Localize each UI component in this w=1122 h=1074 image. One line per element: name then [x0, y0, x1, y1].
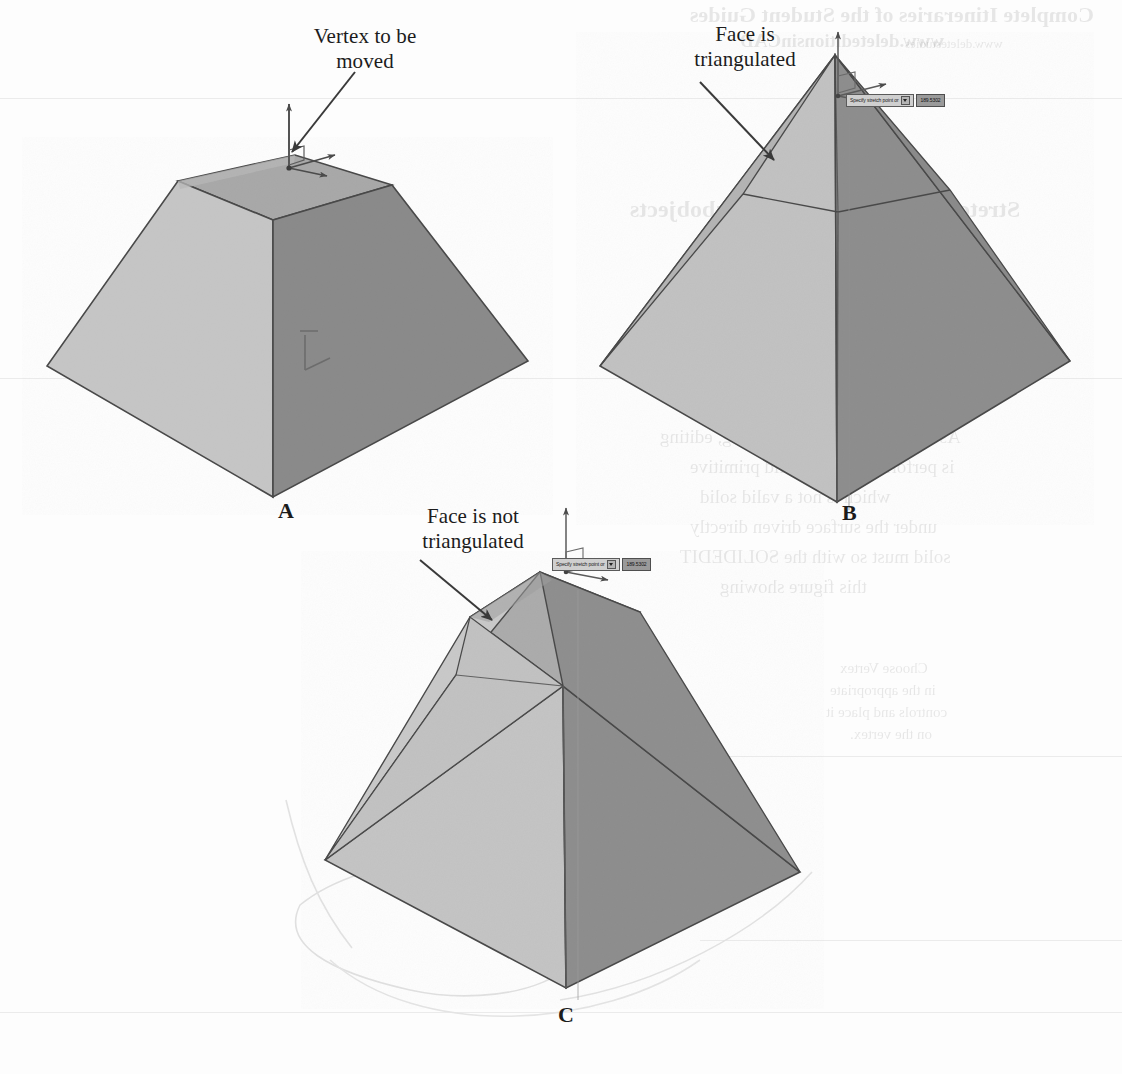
bleed-text: Choose Vertex: [840, 660, 928, 677]
figure-b-apex-crease: [835, 55, 838, 212]
figure-b-leader-line: [700, 82, 774, 160]
figure-c-ghost-ellipse: [296, 858, 582, 995]
figure-a-move-gizmo[interactable]: [286, 104, 335, 176]
figure-c-center-seam: [563, 686, 566, 988]
gizmo-center[interactable]: [836, 94, 841, 99]
chevron-down-icon[interactable]: [901, 96, 910, 105]
bleed-text: is performed on the solid primitive: [690, 456, 954, 478]
bleed-text: under the surface driven directly: [690, 516, 937, 538]
figure-c-upper-left-facet: [325, 572, 540, 860]
figure-a-bevel-strip: [178, 155, 295, 189]
bleed-text: solid must so with the SOLIDEDIT: [680, 546, 951, 568]
figure-c-left-face: [325, 686, 566, 988]
chevron-down-icon[interactable]: [607, 560, 616, 569]
figure-c-top-flat-face: [470, 572, 640, 686]
figure-b-solid: [600, 55, 1070, 502]
figure-c-leader-line: [420, 560, 492, 620]
bleed-text: this figure showing: [720, 576, 867, 598]
figure-a-top-face: [178, 155, 392, 220]
figure-b-tess-edge-right: [838, 190, 950, 212]
figure-b-center-seam: [837, 212, 838, 502]
bleed-rule: [700, 940, 1122, 941]
figure-c-left-crease: [456, 675, 563, 686]
gizmo-x-axis[interactable]: [289, 155, 335, 168]
figure-page: Complete Itineraries of the Student Guid…: [0, 0, 1122, 1074]
figure-a-leader-line: [292, 72, 355, 152]
figure-b-right-face: [835, 55, 1070, 502]
bleed-text: AutoCAD automatically triangulates: [690, 306, 970, 328]
figure-c-left-upper-band: [325, 617, 563, 860]
dynamic-input-prompt-text-c: Specify stretch point or: [556, 559, 604, 570]
callout-vertex-to-be-moved: Vertex to be moved: [270, 24, 460, 74]
gizmo-y-axis[interactable]: [566, 572, 608, 580]
bleed-rule: [0, 378, 1122, 379]
figure-c-right-face: [563, 686, 800, 988]
dynamic-input-coordinate-field-c[interactable]: 189.5302: [622, 558, 650, 571]
bleed-rule: [0, 98, 1122, 99]
bleed-rule: [700, 756, 1122, 757]
bleed-text: on the vertex.: [850, 726, 932, 743]
figure-c-solid: [325, 572, 800, 988]
dynamic-input-prompt-text-b: Specify stretch point or: [850, 95, 898, 106]
bleed-text: it. Simply put: a face should be flat: [680, 336, 947, 358]
figure-letter-a: A: [278, 498, 294, 524]
gizmo-plane-handle[interactable]: [289, 146, 304, 165]
figure-letter-c: C: [558, 1002, 574, 1028]
dynamic-input-coordinate-text-b: 189.5302: [920, 95, 940, 106]
bleed-text: triangulation, ensure you: [690, 396, 879, 418]
callout-face-is-not-triangulated: Face is not triangulated: [378, 504, 568, 554]
figure-a-solid: [47, 155, 528, 497]
dynamic-input-prompt-field-c[interactable]: Specify stretch point or: [552, 558, 620, 571]
dynamic-input-coordinate-field-b[interactable]: 189.5302: [916, 94, 944, 107]
dynamic-input-prompt-field-b[interactable]: Specify stretch point or: [846, 94, 914, 107]
figure-c-ghost-arc-bottom: [330, 960, 700, 1016]
figure-b-triangulated-facet: [600, 55, 835, 366]
bleed-text: As with other subobject editing, editing: [660, 426, 961, 448]
figure-a-right-face: [273, 185, 528, 497]
figure-a-face-marker: [300, 331, 330, 370]
gizmo-plane-handle[interactable]: [838, 72, 855, 93]
dynamic-input-coordinate-text-c: 189.5302: [626, 559, 646, 570]
bleed-text: www.deletestudies: [905, 36, 1003, 52]
figure-c-ghost-arc-left: [286, 800, 352, 948]
bleed-text: Stretching Solid Faces and Subobjects: [630, 196, 1020, 223]
bleed-text: in the appropriate: [830, 682, 936, 699]
bleed-text: controls and place it: [826, 704, 947, 721]
gizmo-y-axis[interactable]: [289, 168, 327, 176]
bleed-text: When you drag a vertex of a face: [700, 246, 953, 268]
dynamic-input-tooltip-b[interactable]: Specify stretch point or 189.5302: [846, 94, 945, 107]
bleed-text: which is not a valid solid: [700, 486, 891, 508]
callout-face-is-triangulated: Face is triangulated: [660, 22, 830, 72]
figure-a-left-face: [47, 181, 273, 497]
figure-letter-b: B: [842, 500, 857, 526]
bleed-text: and in most of the cases. When editing m…: [660, 366, 1022, 388]
figure-b-tess-edge-left: [743, 194, 838, 212]
bleed-text: such that it is no longer planar: [700, 276, 930, 298]
figure-b-left-face: [600, 55, 837, 502]
figure-c-ghost-arc-right: [560, 872, 812, 1000]
figure-c-upper-right-facet: [540, 572, 800, 872]
figure-c-ghost-wireframe: [286, 800, 812, 1016]
gizmo-center[interactable]: [286, 165, 291, 170]
dynamic-input-tooltip-c[interactable]: Specify stretch point or 189.5302: [552, 558, 651, 571]
figure-c-ridge-highlight: [470, 572, 552, 622]
